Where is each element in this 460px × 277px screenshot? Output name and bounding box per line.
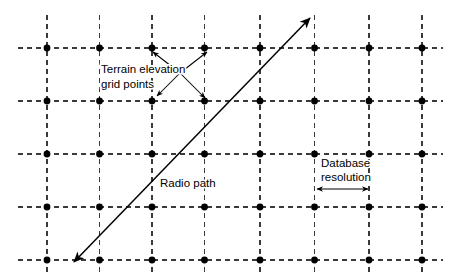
grid-point [44, 204, 51, 211]
grid-point [149, 45, 156, 52]
grid-point [201, 45, 208, 52]
grid-point [311, 98, 318, 105]
grid-point [257, 257, 264, 264]
pointer-arrow-lower-right [180, 73, 205, 98]
grid-horizontal-lines [18, 48, 443, 260]
diagram-canvas: Terrain elevation grid points Radio path… [0, 0, 460, 277]
grid-point [311, 45, 318, 52]
grid-point [44, 151, 51, 158]
grid-point [419, 98, 426, 105]
grid-point [44, 45, 51, 52]
grid-point [96, 45, 103, 52]
grid-vertical-lines [47, 15, 422, 272]
grid-point [201, 257, 208, 264]
grid-point [366, 45, 373, 52]
grid-point [257, 204, 264, 211]
grid-point [257, 151, 264, 158]
grid-point [257, 45, 264, 52]
grid-point [311, 257, 318, 264]
grid-point [149, 257, 156, 264]
grid-point [96, 257, 103, 264]
grid-point [201, 98, 208, 105]
grid-point [149, 98, 156, 105]
terrain-label-line1: Terrain elevation [101, 63, 185, 75]
pointer-arrow-lower-left [157, 73, 180, 96]
grid-point [201, 204, 208, 211]
terrain-label-pointers [153, 52, 207, 98]
database-resolution-label-line1: Database [321, 157, 370, 169]
grid-point [96, 98, 103, 105]
grid-point [96, 151, 103, 158]
radio-path-label: Radio path [160, 177, 216, 189]
grid-point [257, 98, 264, 105]
database-resolution-label-line2: resolution [321, 171, 371, 183]
grid-point [366, 204, 373, 211]
radio-path-line [74, 18, 310, 262]
terrain-grid-diagram: Terrain elevation grid points Radio path… [0, 0, 460, 277]
grid-point [96, 204, 103, 211]
grid-point [419, 45, 426, 52]
grid-point [44, 98, 51, 105]
grid-point [419, 151, 426, 158]
grid-point [149, 151, 156, 158]
grid-point [311, 151, 318, 158]
grid-point [311, 204, 318, 211]
grid-point [419, 257, 426, 264]
grid-point [366, 98, 373, 105]
grid-point [366, 257, 373, 264]
grid-point [44, 257, 51, 264]
grid-point [149, 204, 156, 211]
terrain-label-line2: grid points [101, 78, 154, 90]
diagram-labels: Terrain elevation grid points Radio path… [101, 63, 371, 189]
grid-point [419, 204, 426, 211]
grid-point [201, 151, 208, 158]
